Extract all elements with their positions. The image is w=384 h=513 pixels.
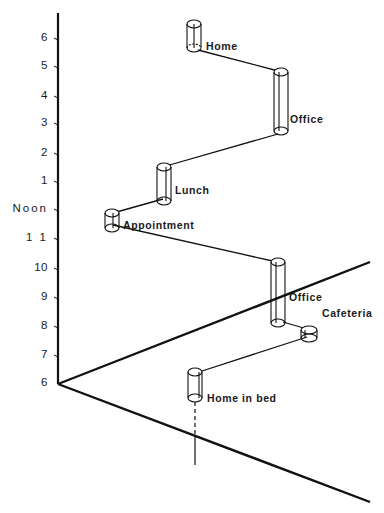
station-home-evening bbox=[187, 20, 201, 52]
place-label-appointment: Appointment bbox=[123, 219, 194, 231]
place-label-cafeteria: Cafeteria bbox=[322, 307, 372, 319]
tick-label-noon: Noon bbox=[0, 202, 48, 214]
tick-label: 10 bbox=[0, 261, 48, 273]
place-label-lunch: Lunch bbox=[175, 184, 210, 196]
tick-label: 6 bbox=[0, 31, 48, 43]
tick-label: 8 bbox=[0, 319, 48, 331]
diagram-canvas bbox=[0, 0, 384, 513]
place-label-home-in-bed: Home in bed bbox=[207, 392, 277, 404]
station-office-morning bbox=[271, 258, 285, 327]
space-time-diagram: 6 5 4 3 2 1 Noon 1 1 10 9 8 7 6 Home in … bbox=[0, 0, 384, 513]
station-office-afternoon bbox=[274, 68, 288, 135]
tick-label: 1 bbox=[0, 174, 48, 186]
tick-label: 6 bbox=[0, 376, 48, 388]
station-home-in-bed bbox=[188, 368, 202, 402]
station-cafeteria bbox=[301, 326, 317, 342]
tick-label: 1 1 bbox=[0, 231, 48, 243]
place-label-home: Home bbox=[206, 40, 238, 52]
tick-label: 9 bbox=[0, 290, 48, 302]
station-appointment bbox=[105, 209, 119, 232]
tick-label: 7 bbox=[0, 348, 48, 360]
space-axis-upper bbox=[58, 262, 370, 384]
station-lunch bbox=[157, 163, 171, 205]
tick-label: 4 bbox=[0, 89, 48, 101]
place-label-office-morning: Office bbox=[289, 291, 322, 303]
tick-label: 2 bbox=[0, 146, 48, 158]
tick-label: 3 bbox=[0, 116, 48, 128]
place-label-office-afternoon: Office bbox=[290, 113, 323, 125]
tick-label: 5 bbox=[0, 59, 48, 71]
